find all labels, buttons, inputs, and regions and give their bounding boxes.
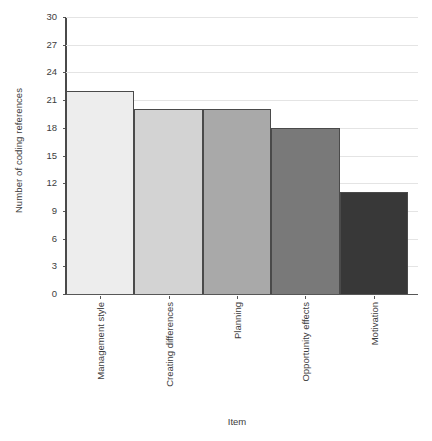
y-axis-tick-label: 21 [46, 93, 57, 106]
x-axis-category: Planning [203, 296, 271, 408]
bar [271, 128, 339, 294]
y-axis-tick-label: 12 [46, 176, 57, 189]
x-axis-tick-label: Planning [231, 302, 242, 339]
x-axis-category: Motivation [340, 296, 408, 408]
y-axis-ticks: 036912151821242730 [0, 17, 66, 294]
x-axis-tick-mark [100, 296, 101, 299]
bar-column [203, 17, 271, 294]
x-axis-tick-mark [169, 296, 170, 299]
x-axis-category: Opportunity effects [271, 296, 339, 408]
bar [66, 91, 134, 294]
y-axis-tick-label: 18 [46, 121, 57, 134]
bar-column [134, 17, 202, 294]
axis-baseline [66, 294, 418, 295]
y-axis-tick-label: 9 [52, 204, 57, 217]
bar-column [271, 17, 339, 294]
y-axis-tick-label: 24 [46, 65, 57, 78]
x-axis-tick-labels: Management styleCreating differencesPlan… [66, 296, 408, 408]
x-axis-tick-mark [374, 296, 375, 299]
y-axis-tick-label: 0 [52, 287, 57, 300]
x-axis-tick-mark [237, 296, 238, 299]
plot-area [66, 17, 418, 294]
y-axis-tick-label: 30 [46, 10, 57, 23]
x-axis-tick-label: Management style [95, 302, 106, 380]
x-axis-title: Item [66, 416, 408, 427]
y-axis-tick-label: 15 [46, 149, 57, 162]
bar-chart: Number of coding references 036912151821… [0, 0, 432, 441]
bar-column [66, 17, 134, 294]
x-axis-tick-label: Opportunity effects [300, 302, 311, 382]
y-axis-tick-label: 3 [52, 259, 57, 272]
y-axis-tick-label: 27 [46, 38, 57, 51]
bar [203, 109, 271, 294]
x-axis-category: Creating differences [134, 296, 202, 408]
bar [134, 109, 202, 294]
bar [340, 192, 408, 294]
x-axis-tick-label: Creating differences [163, 302, 174, 387]
x-axis-tick-mark [305, 296, 306, 299]
y-axis-tick-label: 6 [52, 232, 57, 245]
x-axis-tick-label: Motivation [368, 302, 379, 345]
bar-series [66, 17, 408, 294]
x-axis-category: Management style [66, 296, 134, 408]
bar-column [340, 17, 408, 294]
